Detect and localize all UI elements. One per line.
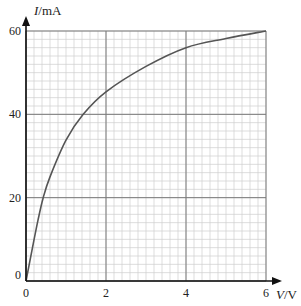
y-axis-label: I/mA: [33, 3, 62, 18]
svg-text:4: 4: [183, 286, 189, 300]
svg-text:0: 0: [15, 268, 21, 282]
svg-text:2: 2: [103, 286, 109, 300]
svg-text:40: 40: [9, 107, 21, 121]
tick-labels: 02460204060: [9, 24, 269, 300]
x-axis-label: V/V: [276, 287, 298, 302]
svg-text:20: 20: [9, 191, 21, 205]
svg-text:6: 6: [263, 286, 269, 300]
iv-chart: 02460204060 I/mA V/V: [0, 0, 301, 306]
minor-grid: [26, 31, 266, 281]
svg-text:60: 60: [9, 24, 21, 38]
svg-text:0: 0: [23, 286, 29, 300]
